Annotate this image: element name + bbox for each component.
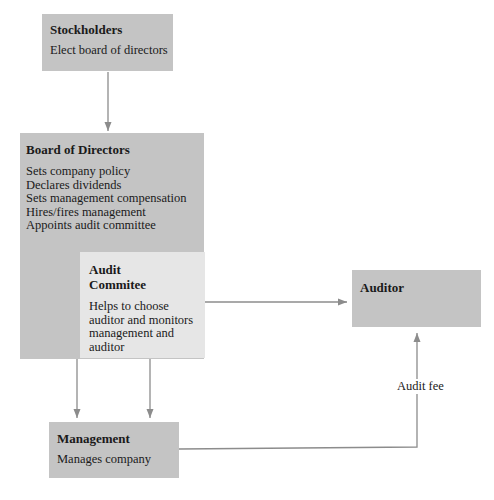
board-duty: Hires/fires management (26, 206, 204, 220)
management-title: Management (57, 431, 179, 446)
audit-fee-label: Audit fee (396, 379, 445, 394)
audit-committee-line: Helps to choose (89, 300, 205, 314)
board-title: Board of Directors (26, 142, 204, 157)
auditor-title: Auditor (360, 280, 481, 295)
stockholders-title: Stockholders (50, 22, 173, 37)
board-duties-list: Sets company policy Declares dividends S… (26, 165, 204, 233)
arrow-management-to-auditor (179, 333, 417, 449)
audit-committee-title-line1: Audit (89, 262, 205, 277)
board-duty: Declares dividends (26, 179, 204, 193)
audit-committee-line: management and (89, 327, 205, 341)
board-duty: Sets company policy (26, 165, 204, 179)
audit-committee-line: auditor (89, 341, 205, 355)
stockholders-description: Elect board of directors (50, 44, 173, 58)
management-box: Management Manages company (49, 422, 179, 478)
stockholders-box: Stockholders Elect board of directors (42, 14, 173, 71)
auditor-box: Auditor (352, 270, 481, 327)
audit-committee-line: auditor and monitors (89, 314, 205, 328)
board-duty: Appoints audit committee (26, 219, 204, 233)
audit-committee-title-line2: Commitee (89, 277, 205, 292)
management-description: Manages company (57, 453, 179, 467)
audit-committee-box: Audit Commitee Helps to choose auditor a… (80, 252, 205, 358)
audit-committee-description: Helps to choose auditor and monitors man… (89, 300, 205, 354)
board-duty: Sets management compensation (26, 192, 204, 206)
